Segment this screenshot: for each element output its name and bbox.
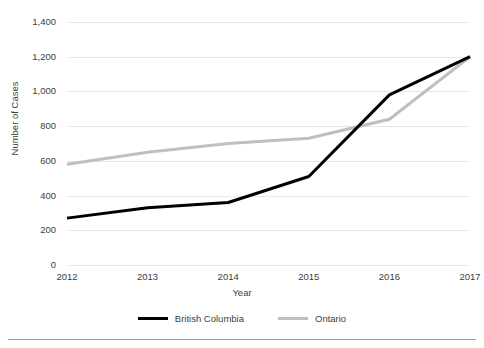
x-axis-tick-label: 2015 xyxy=(279,271,339,282)
legend-item[interactable]: British Columbia xyxy=(138,313,244,324)
series-lines xyxy=(67,22,470,265)
y-axis-tick-label: 200 xyxy=(0,225,56,235)
y-axis-tick: 0 xyxy=(0,260,56,270)
bottom-divider xyxy=(8,339,476,340)
plot-area xyxy=(67,22,470,265)
x-axis-tick-label: 2012 xyxy=(37,271,97,282)
x-axis-tick-label: 2014 xyxy=(198,271,258,282)
gridline xyxy=(67,265,470,266)
x-axis-title: Year xyxy=(0,287,484,298)
line-series xyxy=(67,57,470,218)
legend-swatch-icon xyxy=(278,317,308,320)
chart-figure: 02004006008001,0001,2001,400 Number of C… xyxy=(0,0,484,348)
legend-label: British Columbia xyxy=(175,313,244,324)
legend-label: Ontario xyxy=(315,313,346,324)
x-axis-tick-label: 2017 xyxy=(440,271,484,282)
y-axis-tick-label: 1,400 xyxy=(0,17,56,27)
x-axis-tick-label: 2016 xyxy=(359,271,419,282)
line-series xyxy=(67,57,470,165)
y-axis-tick: 200 xyxy=(0,225,56,235)
chart-legend: British ColumbiaOntario xyxy=(0,313,484,324)
x-axis-tick-label: 2013 xyxy=(118,271,178,282)
legend-swatch-icon xyxy=(138,317,168,320)
y-axis-tick: 400 xyxy=(0,191,56,201)
y-axis-title: Number of Cases xyxy=(9,59,20,179)
legend-item[interactable]: Ontario xyxy=(278,313,346,324)
y-axis-tick-label: 400 xyxy=(0,191,56,201)
y-axis-tick-label: 0 xyxy=(0,260,56,270)
x-axis-tick-labels: 201220132014201520162017 xyxy=(67,271,470,285)
y-axis-tick: 1,400 xyxy=(0,17,56,27)
